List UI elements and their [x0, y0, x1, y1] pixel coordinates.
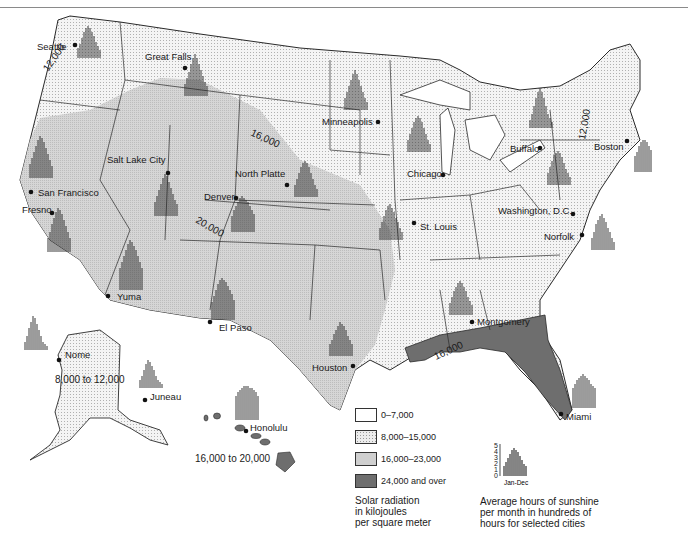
city-miami: Miami [566, 411, 591, 422]
legend-label: 16,000–23,000 [381, 454, 441, 464]
solar-radiation-legend: 0–7,000 8,000–15,000 16,000–23,000 24,00… [355, 404, 495, 528]
city-salt-lake-city: Salt Lake City [107, 154, 166, 165]
hawaii-zone-label: 16,000 to 20,000 [195, 453, 271, 464]
city-seattle: Seattle [37, 41, 67, 52]
city-nome: Nome [65, 349, 90, 360]
legend-swatch-24000-over [355, 474, 377, 488]
legend-swatch-8000-15000 [355, 430, 377, 444]
city-montgomery: Montgomery [477, 316, 530, 327]
city-juneau: Juneau [150, 391, 181, 402]
city-st-louis: St. Louis [420, 221, 457, 232]
city-washington-dc: Washington, D.C. [498, 205, 572, 216]
city-san-francisco: San Francisco [38, 187, 99, 198]
sunshine-glyph-miami [573, 374, 595, 408]
sunshine-glyph-honolulu [236, 386, 258, 420]
sunshine-legend-chart: 5 4 3 2 1 0 Jan-Dec [480, 440, 550, 488]
alaska [30, 330, 168, 460]
legend-label: 0–7,000 [381, 410, 414, 420]
x-axis-label: Jan-Dec [504, 479, 529, 486]
city-fresno: Fresno [22, 204, 52, 215]
legend-item: 0–7,000 [355, 404, 495, 426]
legend-caption: Solar radiation in kilojoules per square… [355, 495, 495, 528]
legend-item: 16,000–23,000 [355, 448, 495, 470]
legend-item: 8,000–15,000 [355, 426, 495, 448]
city-yuma: Yuma [117, 291, 142, 302]
sunshine-glyph-norfolk [592, 214, 614, 250]
sunshine-legend: 5 4 3 2 1 0 Jan-Dec Average hours of sun… [480, 440, 680, 529]
sunshine-caption: Average hours of sunshine per month in h… [480, 496, 680, 529]
axis-tick: 0 [494, 472, 498, 479]
legend-label: 24,000 and over [381, 476, 446, 486]
alaska-zone-label: 8,000 to 12,000 [55, 374, 125, 385]
city-chicago: Chicago [407, 168, 442, 179]
legend-swatch-0-7000 [355, 408, 377, 422]
legend-item: 24,000 and over [355, 470, 495, 492]
city-buffalo: Buffalo [510, 143, 539, 154]
city-houston: Houston [312, 362, 347, 373]
legend-label: 8,000–15,000 [381, 432, 436, 442]
city-north-platte: North Platte [235, 168, 285, 179]
city-denver: Denver [204, 191, 235, 202]
city-boston: Boston [594, 141, 624, 152]
city-norfolk: Norfolk [544, 231, 574, 242]
city-great-falls: Great Falls [145, 51, 192, 62]
city-honolulu: Honolulu [250, 422, 288, 433]
sunshine-glyph-boston [635, 140, 651, 172]
legend-swatch-16000-23000 [355, 452, 377, 466]
sunshine-glyph-nome [25, 316, 47, 350]
city-el-paso: El Paso [219, 322, 252, 333]
city-minneapolis: Minneapolis [322, 116, 373, 127]
sunshine-glyph-juneau [140, 360, 162, 388]
